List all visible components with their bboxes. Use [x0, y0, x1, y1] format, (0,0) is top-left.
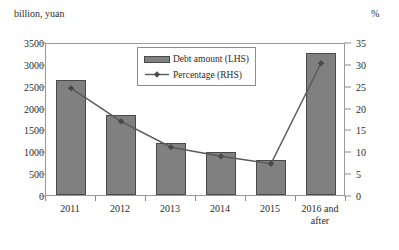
legend-item-percentage: Percentage (RHS) — [144, 68, 249, 81]
legend-item-debt-amount: Debt amount (LHS) — [144, 52, 249, 65]
x-axis-label: 2012 — [95, 203, 145, 215]
left-axis-unit-label: billion, yuan — [14, 8, 65, 19]
right-axis-tick-label: 0 — [356, 191, 361, 202]
x-axis-label: 2011 — [45, 203, 95, 215]
legend-line-marker-icon — [144, 69, 170, 80]
right-axis-tick-label: 20 — [356, 103, 366, 114]
right-axis-tick-label: 25 — [356, 81, 366, 92]
x-axis-label: 2014 — [195, 203, 245, 215]
right-axis-tick-label: 30 — [356, 59, 366, 70]
line-marker — [168, 144, 174, 150]
line-marker — [268, 161, 274, 167]
x-axis-label: 2016 and after — [295, 203, 345, 227]
right-axis-tick-label: 15 — [356, 125, 366, 136]
line-marker — [218, 153, 224, 159]
legend-label-debt-amount: Debt amount (LHS) — [173, 54, 249, 64]
right-axis-tick-label: 35 — [356, 38, 366, 49]
right-axis-unit-label: % — [371, 8, 379, 19]
x-axis-label: 2015 — [245, 203, 295, 215]
right-axis-tick-label: 10 — [356, 147, 366, 158]
line-marker — [318, 60, 324, 66]
chart-legend: Debt amount (LHS) Percentage (RHS) — [137, 47, 256, 86]
chart-container: billion, yuan % 050010001500200025003000… — [0, 0, 399, 250]
legend-bar-swatch-icon — [144, 56, 170, 63]
x-axis-label: 2013 — [145, 203, 195, 215]
legend-label-percentage: Percentage (RHS) — [173, 70, 242, 80]
right-axis-tick-label: 5 — [356, 169, 361, 180]
